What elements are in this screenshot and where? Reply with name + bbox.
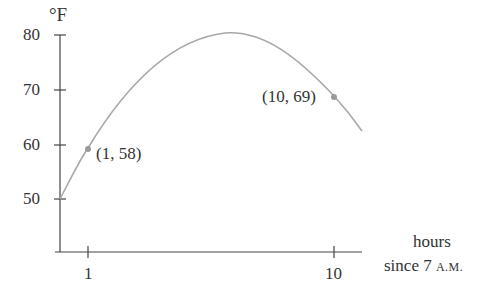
x-axis-label-line2: since 7 A.M. bbox=[384, 256, 463, 276]
y-tick-label-80: 80 bbox=[23, 25, 40, 45]
y-tick-label-70: 70 bbox=[23, 80, 40, 100]
x-tick-label-10: 10 bbox=[325, 264, 342, 284]
data-point-1-58 bbox=[85, 146, 91, 152]
data-point-10-69 bbox=[331, 94, 337, 100]
point-label-1-58: (1, 58) bbox=[96, 144, 141, 164]
x-tick-label-1: 1 bbox=[84, 264, 93, 284]
x-axis-label-line1: hours bbox=[413, 232, 451, 252]
x-axis-label-am: A.M. bbox=[436, 260, 463, 274]
y-tick-label-60: 60 bbox=[23, 135, 40, 155]
temperature-curve bbox=[60, 33, 362, 199]
point-label-10-69: (10, 69) bbox=[262, 87, 316, 107]
y-axis-unit-label: °F bbox=[49, 4, 67, 26]
x-axis-label-prefix: since 7 bbox=[384, 256, 436, 275]
y-tick-label-50: 50 bbox=[23, 189, 40, 209]
